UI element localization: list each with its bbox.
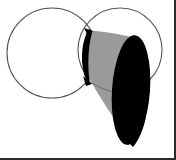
frame-bottom-border xyxy=(0,158,176,160)
figure-page xyxy=(0,0,176,160)
geometric-figure-svg xyxy=(0,0,176,160)
frame-right-border xyxy=(174,0,176,160)
